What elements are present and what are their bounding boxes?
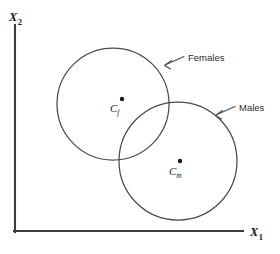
x-axis-label-subscript: 1 [259,232,263,242]
males-callout-label: Males [239,102,265,113]
figure-container: X2 X1 Cf Cm Females Males [0,0,280,254]
y-axis-label-base: X [8,10,18,24]
males-callout-arrow-icon [216,111,223,120]
centroid-marker-males [178,159,182,163]
cluster-diagram-canvas: X2 X1 Cf Cm Females Males [0,0,280,254]
centroid-label-females-subscript: f [117,108,120,117]
centroid-marker-females [120,97,124,101]
centroid-label-females: Cf [110,102,120,117]
females-callout-label: Females [188,52,225,63]
females-callout-leader-line [166,57,184,65]
x-axis-label-base: X [249,225,259,239]
males-callout-leader-line [217,107,235,115]
females-callout-arrow-icon [165,61,172,70]
centroid-label-males-subscript: m [176,171,182,180]
centroid-label-males: Cm [169,165,182,180]
x-axis-label: X1 [249,225,263,242]
y-axis-label-subscript: 2 [18,17,22,27]
